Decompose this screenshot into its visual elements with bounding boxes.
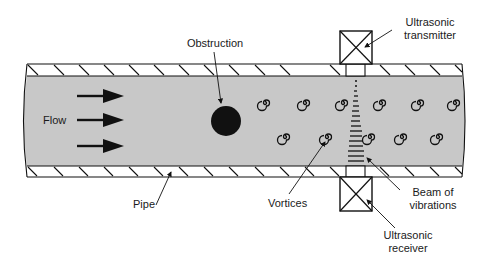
transmitter-port [346,64,365,76]
ultrasonic-transmitter [340,31,372,64]
ultrasonic-receiver [340,177,372,211]
vortex-flowmeter-diagram: Obstruction Ultrasonic transmitter Flow … [0,0,490,263]
transmitter-label-line2: transmitter [390,29,470,42]
vortices-label: Vortices [268,197,307,210]
obstruction-label: Obstruction [175,37,255,50]
receiver-label-line1: Ultrasonic [368,229,448,242]
obstruction [211,106,241,136]
receiver-label-line2: receiver [368,242,448,255]
receiver-leader [367,200,395,228]
receiver-port [346,166,365,177]
flow-label: Flow [43,114,66,127]
transmitter-label-line1: Ultrasonic [390,16,470,29]
beam-label-line2: vibrations [398,199,468,212]
pipe-label: Pipe [133,198,155,211]
beam-label-line1: Beam of [398,186,468,199]
